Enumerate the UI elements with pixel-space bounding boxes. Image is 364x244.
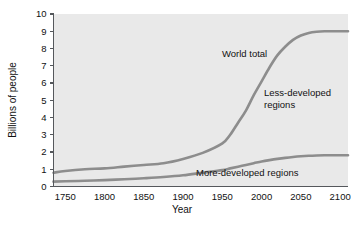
y-tick-label: 1 bbox=[41, 164, 46, 175]
x-tick-label: 1750 bbox=[55, 191, 76, 202]
x-axis-title: Year bbox=[172, 204, 193, 215]
y-tick-label: 7 bbox=[41, 60, 46, 71]
y-tick-label: 4 bbox=[41, 112, 46, 123]
plot-area-background bbox=[53, 14, 348, 186]
x-tick-label: 1800 bbox=[94, 191, 115, 202]
x-tick-label: 1850 bbox=[133, 191, 154, 202]
y-tick-label: 3 bbox=[41, 129, 46, 140]
population-growth-chart: 012345678910 175018001850190019502000205… bbox=[0, 0, 364, 244]
y-tick-label: 9 bbox=[41, 26, 46, 37]
annotation-less-developed-line2: regions bbox=[264, 99, 295, 110]
x-tick-label: 2000 bbox=[251, 191, 272, 202]
y-tick-label: 8 bbox=[41, 43, 46, 54]
x-axis-ticks: 17501800185019001950200020502100 bbox=[55, 191, 351, 202]
population-growth-figure: 012345678910 175018001850190019502000205… bbox=[0, 0, 364, 244]
y-axis-ticks: 012345678910 bbox=[36, 8, 54, 192]
x-tick-label: 1900 bbox=[173, 191, 194, 202]
x-tick-label: 1950 bbox=[212, 191, 233, 202]
y-tick-label: 5 bbox=[41, 95, 46, 106]
y-tick-label: 10 bbox=[36, 8, 47, 19]
annotation-world-total: World total bbox=[222, 48, 267, 59]
annotation-more-developed: More-developed regions bbox=[196, 167, 299, 178]
annotation-less-developed-line1: Less-developed bbox=[264, 87, 331, 98]
x-tick-label: 2100 bbox=[330, 191, 351, 202]
y-tick-label: 0 bbox=[41, 181, 46, 192]
y-axis-title: Billions of people bbox=[7, 62, 18, 138]
y-tick-label: 2 bbox=[41, 146, 46, 157]
y-tick-label: 6 bbox=[41, 77, 46, 88]
x-tick-label: 2050 bbox=[290, 191, 311, 202]
